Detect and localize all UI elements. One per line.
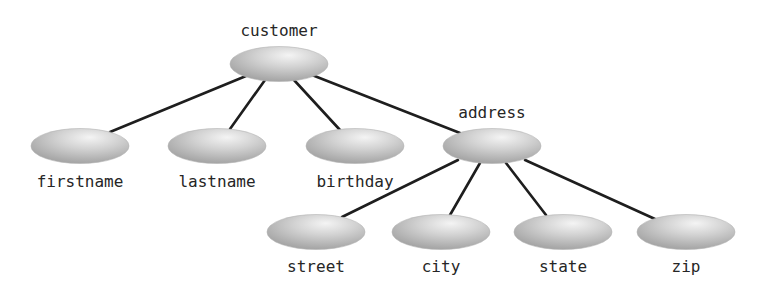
node-lastname: [168, 129, 266, 164]
nodes-layer: [31, 47, 735, 250]
node-label-state: state: [539, 257, 587, 276]
edge-customer-lastname: [230, 80, 265, 129]
node-label-firstname: firstname: [37, 172, 124, 191]
node-label-address: address: [458, 103, 525, 122]
edge-address-state: [506, 163, 546, 215]
edge-address-zip: [525, 160, 655, 219]
node-label-city: city: [422, 257, 461, 276]
edge-customer-birthday: [294, 80, 340, 130]
node-city: [392, 215, 490, 250]
node-label-customer: customer: [240, 21, 317, 40]
node-zip: [637, 215, 735, 250]
node-address: [443, 129, 541, 164]
edge-address-city: [450, 163, 480, 215]
node-firstname: [31, 129, 129, 164]
edge-customer-firstname: [110, 76, 246, 132]
node-label-lastname: lastname: [178, 172, 255, 191]
node-label-street: street: [287, 257, 345, 276]
node-birthday: [306, 129, 404, 164]
node-customer: [230, 47, 328, 82]
tree-diagram: customerfirstnamelastnamebirthdayaddress…: [0, 0, 764, 290]
node-street: [267, 215, 365, 250]
node-label-zip: zip: [672, 257, 701, 276]
node-label-birthday: birthday: [316, 172, 393, 191]
node-state: [514, 215, 612, 250]
